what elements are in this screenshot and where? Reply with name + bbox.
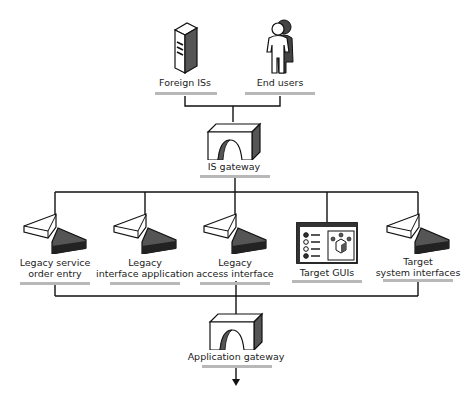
is-gateway-label: IS gateway	[208, 161, 261, 173]
legacy-service-order-entry-label-2: order entry	[28, 268, 81, 280]
is-gateway-icon	[206, 122, 262, 160]
architecture-diagram: Foreign ISs End users IS gateway Legacy …	[0, 0, 476, 406]
legacy-interface-application-label-2: interface application	[96, 268, 194, 280]
is-gateway-underline	[200, 175, 270, 178]
target-guis-label: Target GUIs	[300, 267, 354, 279]
legacy-service-order-entry-underline	[20, 282, 90, 285]
user-person-icon	[262, 18, 298, 76]
target-interface-icon	[385, 212, 453, 254]
foreign-iss-label: Foreign ISs	[159, 77, 211, 89]
application-gateway-label: Application gateway	[188, 351, 285, 363]
legacy-interface-icon	[22, 212, 90, 254]
application-gateway-underline	[202, 365, 272, 368]
legacy-access-interface-underline	[200, 282, 270, 285]
target-system-interfaces-label-2: system interfaces	[376, 267, 461, 279]
legacy-interface-icon	[202, 212, 270, 254]
legacy-access-interface-label-2: access interface	[196, 268, 273, 280]
foreign-iss-underline	[155, 92, 217, 95]
gui-window-icon	[296, 222, 358, 264]
legacy-interface-icon	[112, 212, 180, 254]
legacy-interface-application-underline	[110, 282, 180, 285]
target-guis-underline	[292, 280, 362, 283]
target-system-interfaces-underline	[383, 279, 453, 282]
server-tower-icon	[170, 20, 200, 75]
end-users-label: End users	[257, 77, 304, 89]
end-users-underline	[245, 92, 315, 95]
application-gateway-icon	[208, 312, 264, 350]
